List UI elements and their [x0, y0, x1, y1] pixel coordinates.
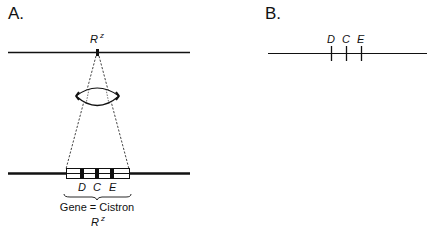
gene-box: [67, 168, 130, 179]
panel-a-label: A.: [8, 4, 24, 23]
diagram-canvas: A. Rz D C E Gene = Cistron Rz B.: [0, 0, 437, 242]
gene-label-b-c: C: [342, 33, 350, 45]
gene-bar-e: [110, 168, 114, 179]
panel-b-label: B.: [265, 4, 281, 23]
locus-label-bottom: Rz: [91, 214, 105, 228]
gene-bar-c: [95, 168, 99, 179]
gene-label-b-d: D: [327, 33, 335, 45]
gene-cistron-label: Gene = Cistron: [60, 201, 134, 213]
brace: [64, 194, 131, 200]
magnifying-lens-icon: [76, 88, 119, 106]
gene-bar-d: [80, 168, 84, 179]
gene-label-c: C: [93, 181, 101, 193]
figure-caption-cropped: [84, 236, 424, 242]
gene-label-d: D: [78, 181, 86, 193]
gene-label-e: E: [109, 181, 117, 193]
projection-lines: [66, 56, 129, 169]
gene-label-b-e: E: [357, 33, 365, 45]
locus-marker-top: [96, 49, 99, 56]
locus-label-top: Rz: [90, 31, 104, 45]
